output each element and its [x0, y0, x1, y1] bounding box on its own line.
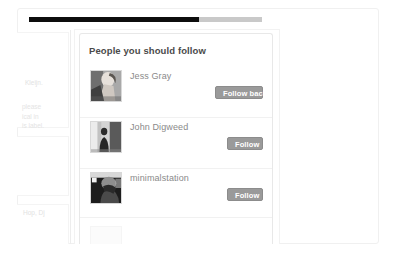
- sidebar-clipped-text-hop: Hop, Dj: [23, 208, 45, 217]
- sidebar-clipped-paragraph: please ical in is label.: [22, 102, 68, 131]
- avatar-photo-john-digweed[interactable]: [90, 121, 122, 153]
- list-item[interactable]: minimalstation Follow: [80, 169, 272, 219]
- follow-back-button[interactable]: Follow back: [215, 86, 263, 99]
- card-title: People you should follow: [89, 45, 206, 56]
- list-item-partial[interactable]: [80, 217, 272, 244]
- page-load-progress-bar: [29, 17, 262, 22]
- sidebar-box-middle: [17, 136, 69, 196]
- sidebar-paragraph-line-3: is label.: [22, 121, 68, 131]
- user-name: minimalstation: [130, 173, 189, 183]
- avatar-photo-jess-gray[interactable]: [90, 70, 122, 102]
- screenshot-root: Kleijn. please ical in is label. Hop, Dj…: [0, 0, 398, 253]
- progress-fill: [29, 17, 199, 22]
- sidebar-paragraph-line-2: ical in: [22, 112, 68, 122]
- people-you-should-follow-card: People you should follow Jess Gray: [79, 33, 273, 244]
- list-item[interactable]: Jess Gray Follow back: [80, 67, 272, 118]
- follow-button[interactable]: Follow: [227, 137, 263, 150]
- left-sidebar: Kleijn. please ical in is label. Hop, Dj: [17, 28, 70, 244]
- follow-button[interactable]: Follow: [227, 188, 263, 201]
- column-divider: [70, 30, 71, 244]
- user-name: John Digweed: [130, 122, 188, 132]
- avatar-placeholder: [90, 226, 122, 244]
- sidebar-clipped-text-kleijn: Kleijn.: [25, 78, 43, 87]
- sidebar-paragraph-line-1: please: [22, 102, 68, 112]
- list-item[interactable]: John Digweed Follow: [80, 118, 272, 169]
- avatar-photo-minimalstation[interactable]: [90, 172, 122, 204]
- suggested-users-list: Jess Gray Follow back John Digw: [80, 67, 272, 219]
- user-name: Jess Gray: [130, 71, 171, 81]
